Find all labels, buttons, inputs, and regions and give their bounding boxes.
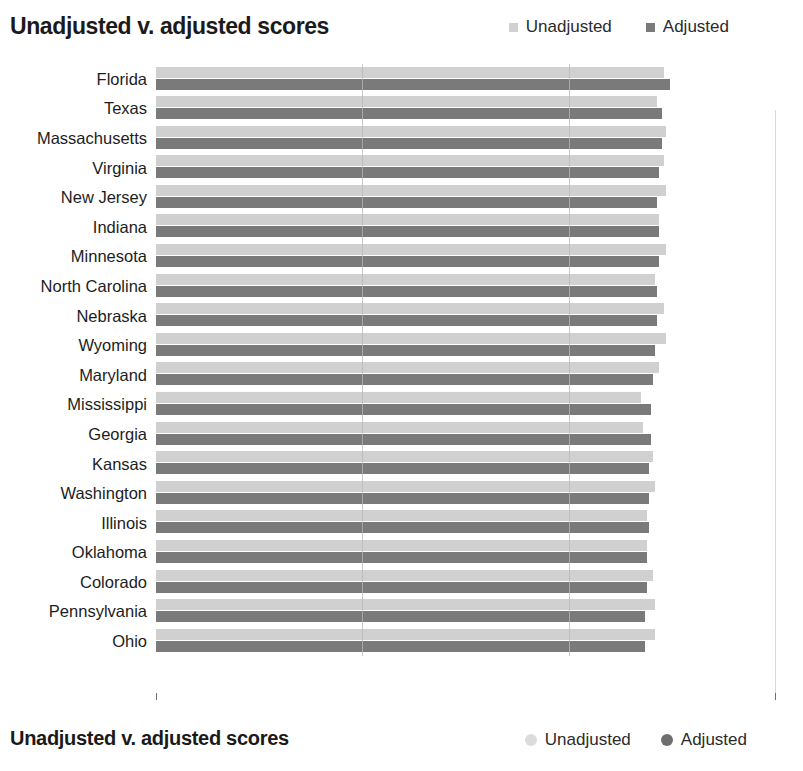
bar-row: Virginia xyxy=(156,153,775,183)
bar-adjusted xyxy=(156,641,645,652)
bar-row: Nebraska xyxy=(156,301,775,331)
footer-legend-item-unadjusted[interactable]: Unadjusted xyxy=(525,730,631,750)
legend-label: Adjusted xyxy=(663,17,729,37)
footer-title: Unadjusted v. adjusted scores xyxy=(10,727,289,750)
footer-legend: UnadjustedAdjusted xyxy=(525,730,747,750)
gridline xyxy=(569,64,570,656)
gridline xyxy=(362,64,363,656)
bar-row: Texas xyxy=(156,94,775,124)
bar-row: Kansas xyxy=(156,449,775,479)
page-title: Unadjusted v. adjusted scores xyxy=(10,13,329,40)
bar-unadjusted xyxy=(156,599,655,610)
bar-row: North Carolina xyxy=(156,271,775,301)
bar-adjusted xyxy=(156,345,655,356)
bar-row: Massachusetts xyxy=(156,123,775,153)
bar-row: Illinois xyxy=(156,508,775,538)
bar-row: Georgia xyxy=(156,419,775,449)
bar-unadjusted xyxy=(156,274,655,285)
bar-adjusted xyxy=(156,493,649,504)
bar-row: Wyoming xyxy=(156,330,775,360)
bar-row: Colorado xyxy=(156,567,775,597)
bar-unadjusted xyxy=(156,570,653,581)
y-axis-label: Indiana xyxy=(93,219,147,236)
bar-unadjusted xyxy=(156,126,666,137)
plot-area: FloridaTexasMassachusettsVirginiaNew Jer… xyxy=(0,52,803,700)
bar-adjusted xyxy=(156,434,651,445)
bar-adjusted xyxy=(156,108,662,119)
y-axis-label: Ohio xyxy=(112,633,147,650)
legend-label: Unadjusted xyxy=(526,17,612,37)
bar-row: Ohio xyxy=(156,626,775,656)
bar-row: Maryland xyxy=(156,360,775,390)
y-axis-label: Oklahoma xyxy=(72,544,147,561)
bar-adjusted xyxy=(156,522,649,533)
bar-unadjusted xyxy=(156,629,655,640)
bar-adjusted xyxy=(156,167,659,178)
square-swatch xyxy=(509,23,518,32)
y-axis-label: Texas xyxy=(104,100,147,117)
bar-unadjusted xyxy=(156,510,647,521)
footer-legend-label: Adjusted xyxy=(681,730,747,750)
footer-bar: Unadjusted v. adjusted scores Unadjusted… xyxy=(0,700,803,771)
bar-unadjusted xyxy=(156,303,664,314)
y-axis-label: Georgia xyxy=(88,426,147,443)
footer-legend-item-adjusted[interactable]: Adjusted xyxy=(661,730,747,750)
bar-unadjusted xyxy=(156,362,659,373)
y-axis-label: Wyoming xyxy=(78,337,147,354)
bar-adjusted xyxy=(156,256,659,267)
bar-row: Florida xyxy=(156,64,775,94)
circle-swatch xyxy=(525,734,537,746)
y-axis-label: Washington xyxy=(60,485,147,502)
bar-unadjusted xyxy=(156,540,647,551)
bar-unadjusted xyxy=(156,244,666,255)
bar-adjusted xyxy=(156,404,651,415)
bar-adjusted xyxy=(156,138,662,149)
bars-container: FloridaTexasMassachusettsVirginiaNew Jer… xyxy=(156,64,775,656)
chart-header: Unadjusted v. adjusted scores Unadjusted… xyxy=(0,0,803,52)
y-axis-label: Minnesota xyxy=(71,248,147,265)
y-axis-label: North Carolina xyxy=(41,278,147,295)
bar-adjusted xyxy=(156,582,647,593)
bar-adjusted xyxy=(156,226,659,237)
y-axis-label: Massachusetts xyxy=(37,130,147,147)
footer-legend-label: Unadjusted xyxy=(545,730,631,750)
bar-unadjusted xyxy=(156,422,643,433)
y-axis-label: Virginia xyxy=(92,159,147,176)
bar-adjusted xyxy=(156,463,649,474)
bar-unadjusted xyxy=(156,67,664,78)
bar-row: Washington xyxy=(156,478,775,508)
y-axis-label: New Jersey xyxy=(61,189,147,206)
bar-unadjusted xyxy=(156,333,666,344)
y-axis-label: Kansas xyxy=(92,455,147,472)
bar-rows: FloridaTexasMassachusettsVirginiaNew Jer… xyxy=(156,64,775,656)
y-axis-label: Nebraska xyxy=(76,307,147,324)
bar-row: Pennsylvania xyxy=(156,597,775,627)
bar-row: Minnesota xyxy=(156,242,775,272)
legend-item-unadjusted[interactable]: Unadjusted xyxy=(509,17,612,37)
bar-adjusted xyxy=(156,552,647,563)
y-axis-label: Mississippi xyxy=(67,396,147,413)
bar-unadjusted xyxy=(156,185,666,196)
y-axis-label: Illinois xyxy=(101,514,147,531)
bar-adjusted xyxy=(156,197,657,208)
chart-legend: UnadjustedAdjusted xyxy=(509,17,729,37)
bar-row: New Jersey xyxy=(156,182,775,212)
y-axis-label: Florida xyxy=(97,71,147,88)
bar-adjusted xyxy=(156,79,670,90)
bar-unadjusted xyxy=(156,214,659,225)
legend-item-adjusted[interactable]: Adjusted xyxy=(646,17,729,37)
bar-row: Mississippi xyxy=(156,390,775,420)
y-axis-label: Pennsylvania xyxy=(49,603,147,620)
y-axis-label: Colorado xyxy=(80,574,147,591)
bar-adjusted xyxy=(156,611,645,622)
bar-unadjusted xyxy=(156,451,653,462)
bar-adjusted xyxy=(156,286,657,297)
bar-unadjusted xyxy=(156,155,664,166)
square-swatch xyxy=(646,23,655,32)
y-axis-label: Maryland xyxy=(79,366,147,383)
chart-page: Unadjusted v. adjusted scores Unadjusted… xyxy=(0,0,803,771)
bar-row: Indiana xyxy=(156,212,775,242)
plot-right-border xyxy=(775,110,776,710)
circle-swatch xyxy=(661,734,673,746)
bar-unadjusted xyxy=(156,481,655,492)
